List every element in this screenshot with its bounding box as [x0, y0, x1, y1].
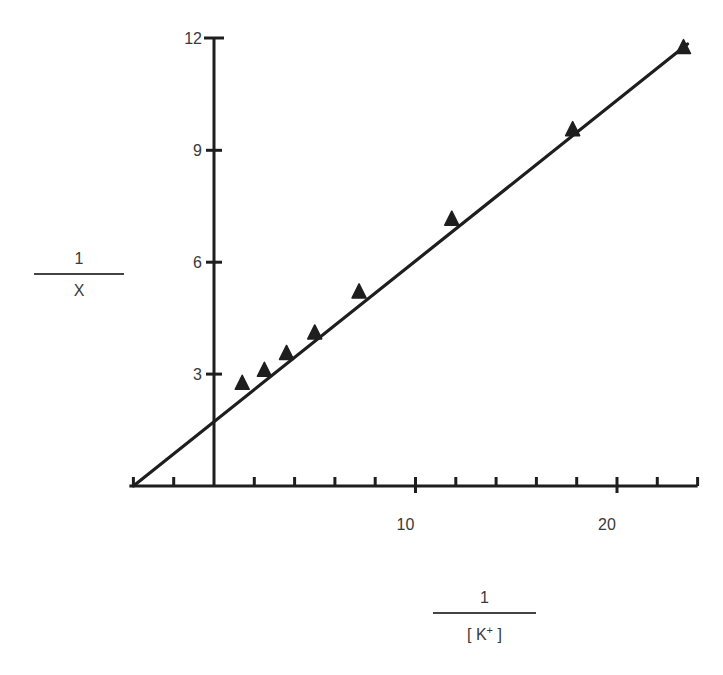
triangle-marker	[445, 211, 459, 225]
y-tick-label: 3	[193, 366, 202, 383]
axes	[129, 38, 697, 493]
y-axis-label: 1 X	[34, 249, 124, 301]
lineweaver-burk-plot: 369121020	[0, 0, 723, 675]
y-tick-label: 12	[184, 30, 202, 47]
triangle-marker	[676, 40, 690, 54]
y-tick-label: 6	[193, 254, 202, 271]
y-label-numerator: 1	[34, 249, 124, 269]
triangle-marker	[235, 375, 249, 389]
triangle-marker	[308, 325, 322, 339]
triangle-marker	[352, 284, 366, 298]
triangle-marker	[257, 362, 271, 376]
y-label-denominator: X	[34, 281, 124, 301]
fit-line	[133, 44, 687, 486]
x-label-numerator: 1	[433, 588, 536, 608]
triangle-marker	[566, 122, 580, 136]
x-tick-label: 10	[397, 516, 415, 533]
fraction-bar	[433, 612, 536, 614]
tick-labels: 369121020	[184, 30, 616, 533]
y-tick-label: 9	[193, 142, 202, 159]
triangle-marker	[280, 345, 294, 359]
data-points	[235, 40, 690, 390]
x-label-denominator: [ K+ ]	[433, 620, 536, 645]
x-axis-label: 1 [ K+ ]	[433, 588, 536, 645]
x-tick-label: 20	[598, 516, 616, 533]
regression-line	[133, 44, 687, 486]
fraction-bar	[34, 273, 124, 275]
